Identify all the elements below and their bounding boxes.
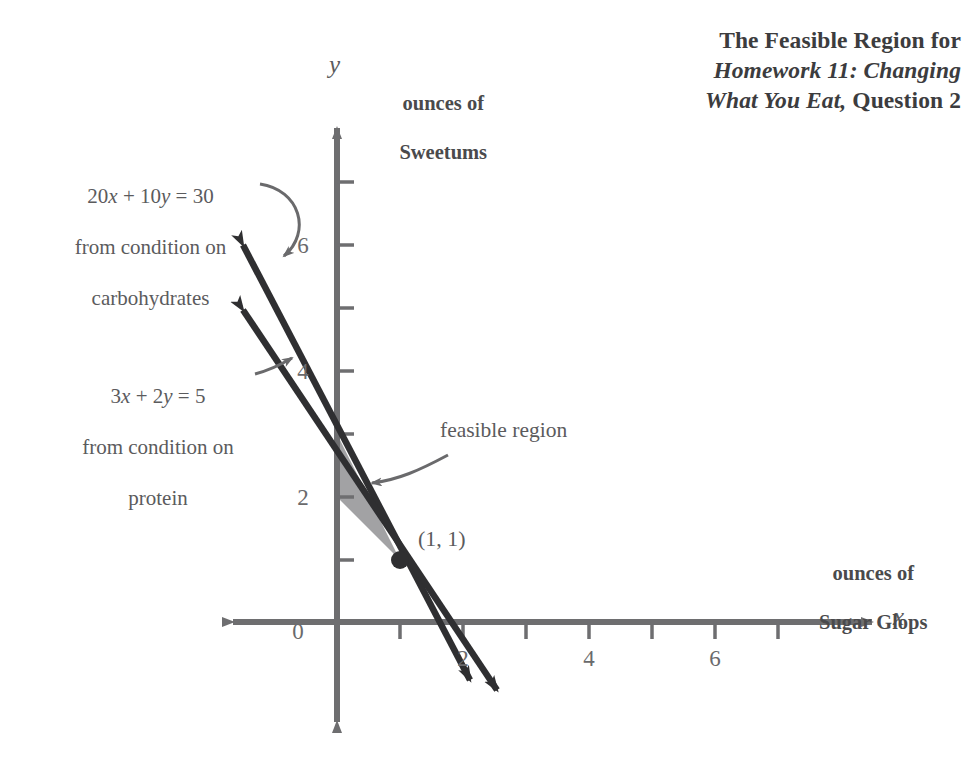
x-tick-label-2: 2	[443, 645, 483, 672]
annotation-protein: 3x + 2y = 5 from condition on protein	[40, 358, 255, 537]
feasible-region-label: feasible region	[440, 418, 567, 443]
protein-eq-coefficient-x: 3	[111, 384, 122, 408]
feasible-region-leader-arrow	[372, 455, 448, 483]
carb-eq-result: = 30	[170, 184, 213, 208]
y-axis-caption-line-2: Sweetums	[399, 141, 487, 163]
protein-eq-result: = 5	[173, 384, 206, 408]
x-axis-caption-line-2: Sugar Glops	[819, 611, 927, 633]
protein-eq-variable-x: x	[121, 384, 130, 408]
x-tick-label-6: 6	[695, 645, 735, 672]
protein-eq-variable-y: y	[163, 384, 172, 408]
carbohydrates-equation: 20x + 10y = 30	[87, 184, 213, 208]
x-tick-label-4: 4	[569, 645, 609, 672]
vertex-coordinate-label: (1, 1)	[418, 526, 466, 552]
carb-eq-variable-x: x	[108, 184, 117, 208]
annotation-carbohydrates: 20x + 10y = 30 from condition on carbohy…	[30, 158, 250, 337]
y-tick-label-2: 2	[283, 484, 323, 511]
protein-eq-middle: + 2	[130, 384, 163, 408]
y-axis-caption-line-1: ounces of	[403, 92, 484, 114]
y-axis-symbol: y	[329, 50, 340, 80]
x-axis-caption-line-1: ounces of	[833, 562, 914, 584]
carbohydrates-description-line-1: from condition on	[75, 235, 227, 259]
y-tick-label-6: 6	[283, 232, 323, 259]
vertex-point-marker	[391, 551, 409, 569]
origin-tick-label: 0	[278, 618, 318, 645]
protein-description-line-2: protein	[128, 486, 187, 510]
carb-eq-coefficient-x: 20	[87, 184, 108, 208]
carbohydrates-description-line-2: carbohydrates	[92, 286, 210, 310]
feasible-region-figure: The Feasible Region for Homework 11: Cha…	[0, 0, 977, 771]
protein-description-line-1: from condition on	[82, 435, 234, 459]
protein-equation: 3x + 2y = 5	[111, 384, 206, 408]
x-axis-caption: ounces of Sugar Glops	[768, 536, 958, 659]
y-tick-label-4: 4	[283, 358, 323, 385]
carb-eq-middle: + 10	[118, 184, 161, 208]
y-axis-caption: ounces of Sweetums	[358, 66, 508, 189]
carb-eq-variable-y: y	[161, 184, 170, 208]
